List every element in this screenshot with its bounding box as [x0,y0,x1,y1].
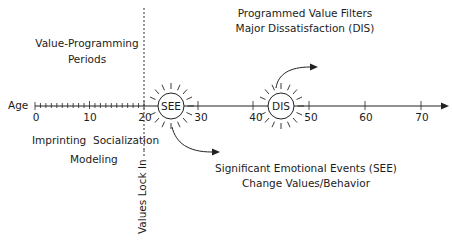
tick-label-40: 40 [249,111,262,123]
axis-arrow-icon [441,103,449,110]
stage-modeling: Modeling [70,153,118,166]
axis-label-age: Age [8,99,28,112]
minor-ticks [35,101,144,110]
stage-imprinting: Imprinting [32,134,86,147]
tick-label-30: 30 [194,111,207,123]
see-caption-line1: Significant Emotional Events (SEE) [206,162,406,175]
dis-caption-line2: Major Dissatisfaction (DIS) [230,22,380,35]
tick-label-20: 20 [138,111,151,123]
tick-label-60: 60 [359,111,372,123]
dis-arrow-head-icon [310,64,318,71]
see-label: SEE [161,100,181,112]
dis-caption-line1: Programmed Value Filters [230,7,380,20]
tick-label-70: 70 [415,111,428,123]
dis-label: DIS [272,100,290,112]
tick-label-50: 50 [304,111,317,123]
see-arrow-head-icon [212,149,220,156]
periods-title-line1: Value-Programming [32,37,142,50]
periods-title-line2: Periods [32,53,142,66]
see-caption-line2: Change Values/Behavior [206,177,406,190]
values-lock-in-label: Values Lock In [136,159,148,234]
see-arrow [172,127,212,152]
periods-title: Value-Programming Periods [32,37,142,66]
see-caption: Significant Emotional Events (SEE) Chang… [206,162,406,190]
dis-caption: Programmed Value Filters Major Dissatisf… [230,5,380,35]
stage-socialization: Socialization [93,134,159,147]
tick-label-10: 10 [83,111,96,123]
tick-label-0: 0 [33,111,40,123]
